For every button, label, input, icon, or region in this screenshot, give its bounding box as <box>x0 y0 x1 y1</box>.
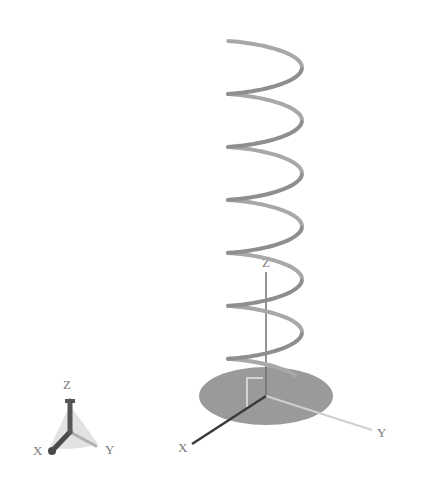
3d-helix-viewport[interactable]: X Y Z X Y Z <box>0 0 422 486</box>
triad-z-label: Z <box>63 377 71 392</box>
triad-z-cap-icon <box>65 399 75 403</box>
triad-x-cap-icon <box>48 447 56 455</box>
triad-y-label: Y <box>105 442 115 457</box>
triad-x-label: X <box>33 443 43 458</box>
y-axis-label: Y <box>377 425 387 440</box>
x-axis-label: X <box>178 440 188 455</box>
viewport-background <box>0 0 422 486</box>
